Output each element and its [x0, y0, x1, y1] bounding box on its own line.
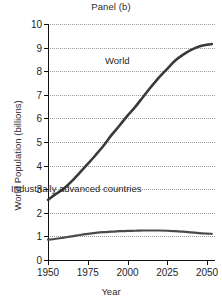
y-tick-label-6: 6 [36, 113, 42, 124]
chart-panel-b: Panel (b) World Population (billions) 01… [0, 0, 222, 298]
x-tick-mark-2000 [128, 260, 129, 265]
x-axis-line [48, 260, 215, 261]
series-curves [48, 24, 215, 260]
x-tick-label-2050: 2050 [196, 267, 218, 278]
y-tick-label-5: 5 [36, 137, 42, 148]
series-label-world: World [105, 55, 130, 66]
x-tick-label-2000: 2000 [116, 267, 138, 278]
series-path-industrially-advanced-countries [48, 230, 212, 239]
y-tick-label-10: 10 [31, 19, 42, 30]
y-axis-title: World Population (billions) [12, 71, 23, 241]
y-tick-label-2: 2 [36, 207, 42, 218]
x-tick-mark-2050 [207, 260, 208, 265]
x-tick-label-2025: 2025 [156, 267, 178, 278]
y-tick-label-0: 0 [36, 255, 42, 266]
x-tick-label-1975: 1975 [77, 267, 99, 278]
x-axis-title: Year [0, 286, 222, 297]
x-tick-mark-1950 [48, 260, 49, 265]
y-tick-label-9: 9 [36, 42, 42, 53]
y-tick-label-1: 1 [36, 231, 42, 242]
series-label-industrially-advanced-countries: Industrially advanced countries [11, 183, 141, 194]
x-tick-label-1950: 1950 [37, 267, 59, 278]
chart-title: Panel (b) [0, 1, 222, 12]
y-tick-label-8: 8 [36, 66, 42, 77]
series-path-world [48, 44, 212, 200]
y-tick-label-4: 4 [36, 160, 42, 171]
x-tick-mark-2025 [167, 260, 168, 265]
x-tick-mark-1975 [88, 260, 89, 265]
plot-area: 012345678910 19501975200020252050 [48, 24, 215, 260]
y-tick-label-7: 7 [36, 89, 42, 100]
